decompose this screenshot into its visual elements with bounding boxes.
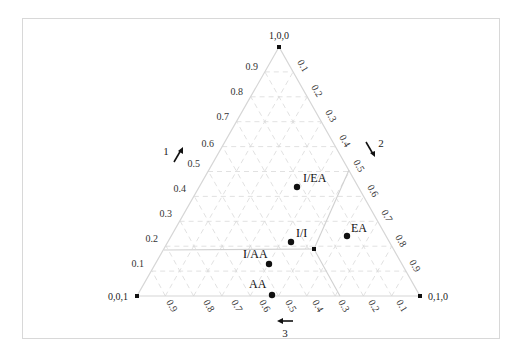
vertex-bl-marker [135, 294, 139, 298]
svg-text:0.9: 0.9 [407, 258, 423, 274]
svg-text:0.5: 0.5 [351, 158, 367, 174]
axis1-arrow-icon [174, 147, 183, 162]
point-i-ea [294, 184, 300, 190]
svg-text:0.3: 0.3 [336, 298, 352, 314]
svg-text:0.2: 0.2 [146, 233, 159, 244]
svg-text:0.4: 0.4 [174, 183, 187, 194]
svg-text:0.6: 0.6 [365, 183, 381, 199]
svg-text:0.8: 0.8 [231, 86, 244, 97]
bottom-axis-ticks: 0.9 0.8 0.7 0.6 0.5 0.4 0.3 0.2 0.1 [164, 298, 410, 314]
svg-text:0.5: 0.5 [188, 158, 201, 169]
svg-text:0.4: 0.4 [337, 133, 353, 149]
svg-text:0.7: 0.7 [229, 298, 245, 314]
point-i-i [288, 239, 294, 245]
svg-text:0.3: 0.3 [160, 208, 173, 219]
svg-text:0.4: 0.4 [310, 298, 326, 314]
svg-text:0.7: 0.7 [217, 111, 230, 122]
vertex-top-marker [277, 45, 281, 49]
point-aa [269, 292, 275, 298]
svg-text:0.3: 0.3 [323, 108, 339, 124]
point-label-i-i: I/I [296, 226, 307, 240]
left-axis-ticks: 0.1 0.2 0.3 0.4 0.5 0.6 0.7 0.8 0.9 [132, 61, 259, 269]
svg-text:0.1: 0.1 [295, 58, 311, 74]
axis2-label: 2 [378, 137, 384, 149]
right-axis-ticks: 0.1 0.2 0.3 0.4 0.5 0.6 0.7 0.8 0.9 [295, 58, 423, 274]
svg-text:0.5: 0.5 [283, 298, 299, 314]
point-label-i-ea: I/EA [303, 171, 327, 185]
svg-text:0.6: 0.6 [257, 298, 273, 314]
axis2-arrow-icon [366, 142, 375, 157]
svg-text:0.9: 0.9 [164, 298, 180, 314]
triangle-outline [137, 47, 420, 296]
axis3-arrow-icon [277, 318, 293, 324]
vertex-br-label: 0,1,0 [428, 291, 448, 302]
point-i-aa [266, 261, 272, 267]
ternary-plot: 1,0,0 0,0,1 0,1,0 0.1 0.2 0.3 0.4 0.5 0.… [0, 0, 524, 359]
svg-text:0.1: 0.1 [132, 258, 145, 269]
axis3-label: 3 [282, 327, 288, 339]
point-label-ea: EA [351, 221, 367, 235]
svg-text:0.7: 0.7 [379, 208, 395, 224]
point-label-i-aa: I/AA [243, 247, 268, 261]
vertex-br-marker [418, 294, 422, 298]
svg-text:0.9: 0.9 [246, 61, 259, 72]
vertex-top-label: 1,0,0 [269, 30, 289, 41]
axis1-label: 1 [163, 145, 169, 157]
svg-text:0.8: 0.8 [393, 233, 409, 249]
point-label-aa: AA [249, 277, 267, 291]
svg-text:0.6: 0.6 [202, 138, 215, 149]
svg-text:0.1: 0.1 [394, 298, 410, 314]
vertex-bl-label: 0,0,1 [108, 291, 128, 302]
svg-text:0.2: 0.2 [309, 83, 325, 99]
svg-text:0.2: 0.2 [366, 298, 382, 314]
grid-lines [151, 72, 406, 296]
svg-text:0.8: 0.8 [201, 298, 217, 314]
boundary-junction-marker [312, 247, 316, 251]
point-ea [344, 233, 350, 239]
